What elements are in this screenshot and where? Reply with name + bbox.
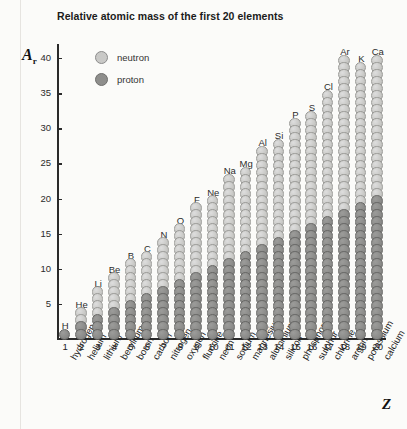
- element-column: N: [156, 241, 171, 339]
- element-column: K: [354, 65, 369, 339]
- proton-circle: [289, 329, 301, 341]
- proton-circle: [190, 329, 202, 341]
- y-tick-label-15: 15: [11, 228, 51, 239]
- proton-circle: [256, 329, 268, 341]
- element-column: H: [58, 332, 73, 339]
- element-column: Na: [222, 177, 237, 339]
- element-column: Li: [91, 290, 106, 339]
- proton-circle: [338, 329, 350, 341]
- element-column: S: [304, 114, 319, 339]
- x-axis-title: Z: [382, 396, 391, 413]
- y-tick-label-25: 25: [11, 157, 51, 168]
- element-column: Ne: [206, 199, 221, 339]
- element-column: Ar: [337, 58, 352, 339]
- y-tick-label-20: 20: [11, 193, 51, 204]
- element-column: Mg: [239, 170, 254, 339]
- proton-circle: [371, 329, 383, 341]
- element-column: Cl: [321, 93, 336, 339]
- proton-circle: [305, 329, 317, 341]
- proton-circle: [223, 329, 235, 341]
- y-tick-label-40: 40: [11, 52, 51, 63]
- plot-area: HHeLiBeBCNOFNeNaMgAlSiPSClArKCa: [57, 44, 386, 339]
- proton-circle: [92, 329, 104, 341]
- y-tick-label-30: 30: [11, 122, 51, 133]
- proton-circle: [108, 329, 120, 341]
- element-column: O: [173, 227, 188, 339]
- element-column: C: [140, 255, 155, 339]
- element-column: P: [288, 121, 303, 339]
- proton-circle: [75, 329, 87, 341]
- y-tick-label-10: 10: [11, 263, 51, 274]
- y-tick-label-5: 5: [11, 298, 51, 309]
- proton-circle: [273, 329, 285, 341]
- element-column: F: [189, 206, 204, 339]
- element-column: Si: [272, 142, 287, 339]
- proton-circle: [59, 329, 71, 341]
- chart-title: Relative atomic mass of the first 20 ele…: [57, 10, 283, 22]
- relative-atomic-mass-chart: Relative atomic mass of the first 20 ele…: [0, 0, 407, 429]
- element-column: Be: [107, 276, 122, 339]
- element-column: Ca: [370, 58, 385, 339]
- y-tick-label-35: 35: [11, 87, 51, 98]
- proton-circle: [240, 329, 252, 341]
- proton-circle: [125, 329, 137, 341]
- element-column: Al: [255, 149, 270, 339]
- proton-circle: [157, 329, 169, 341]
